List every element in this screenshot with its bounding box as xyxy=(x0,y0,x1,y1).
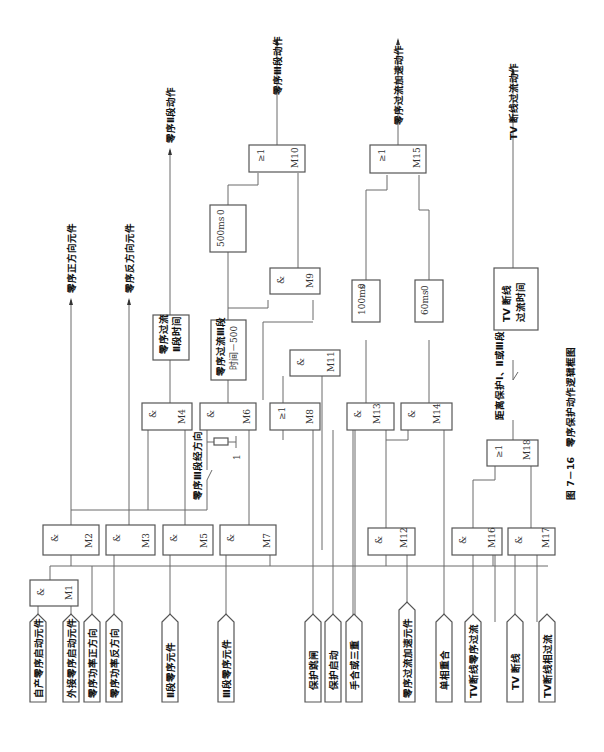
svg-text:≥1: ≥1 xyxy=(377,149,387,162)
svg-text:M13: M13 xyxy=(372,403,382,424)
input-label: 零序过流加速元件 xyxy=(402,618,413,699)
svg-text:0: 0 xyxy=(216,209,226,215)
svg-text:&: & xyxy=(276,276,286,284)
svg-text:M1: M1 xyxy=(64,585,74,600)
input-label: 单相重合 xyxy=(439,650,450,690)
input-label: TV 断线 xyxy=(510,653,521,690)
logic-diagram: 自产零序启动元件 外接零序启动元件 零序功率正方向 零序功率反方向 Ⅱ段零序元件… xyxy=(0,0,604,752)
svg-text:≥1: ≥1 xyxy=(494,445,504,458)
svg-text:M14: M14 xyxy=(432,403,442,424)
svg-text:&: & xyxy=(353,410,363,418)
gates: & M1 & M2 & M3 & M5 & M7 & M4 & M6 ≥1 M8… xyxy=(30,145,555,606)
svg-text:&: & xyxy=(112,534,122,542)
svg-text:M2: M2 xyxy=(84,533,94,548)
svg-text:零序过流Ⅲ段: 零序过流Ⅲ段 xyxy=(215,317,226,377)
svg-text:M10: M10 xyxy=(290,147,300,168)
svg-text:零序Ⅱ段动作: 零序Ⅱ段动作 xyxy=(165,87,176,144)
svg-text:M12: M12 xyxy=(399,527,409,548)
svg-text:&: & xyxy=(148,410,158,418)
input-label: Ⅱ段零序元件 xyxy=(165,642,176,698)
svg-text:&: & xyxy=(514,536,524,544)
svg-text:M3: M3 xyxy=(141,533,151,548)
svg-text:零序过流加速动作: 零序过流加速动作 xyxy=(393,45,404,126)
svg-text:≥1: ≥1 xyxy=(277,407,287,420)
input-label: TV断线零序过流 xyxy=(468,624,479,698)
svg-text:M17: M17 xyxy=(541,527,551,548)
input-label: 零序功率正方向 xyxy=(87,628,98,699)
svg-text:M9: M9 xyxy=(305,273,315,288)
input-label: 手合或三重 xyxy=(349,640,360,690)
input-label: 自产零序启动元件 xyxy=(33,618,44,698)
svg-text:&: & xyxy=(36,588,46,596)
input-label: TV断线相过流 xyxy=(542,634,553,698)
figure-caption: 图 7－16 零序保护动作逻辑框图 xyxy=(565,347,576,500)
svg-text:零序Ⅲ段动作: 零序Ⅲ段动作 xyxy=(272,36,283,96)
input-labels: 自产零序启动元件 外接零序启动元件 零序功率正方向 零序功率反方向 Ⅱ段零序元件… xyxy=(33,618,553,699)
svg-text:&: & xyxy=(226,534,236,542)
input-label: 保护跳闸 xyxy=(308,650,319,691)
svg-text:M11: M11 xyxy=(326,351,336,372)
svg-text:TV 断线过流动作: TV 断线过流动作 xyxy=(508,63,519,140)
input-label: Ⅲ段零序元件 xyxy=(221,639,232,698)
timers: 零序过流 Ⅱ段时间 零序过流Ⅲ段 时间－500 500ms 0 100ms 0 … xyxy=(153,205,538,380)
svg-text:时间－500: 时间－500 xyxy=(228,326,239,370)
switch-label-distance: 距离保护Ⅰ、Ⅱ或Ⅲ段 xyxy=(494,331,505,420)
svg-text:M6: M6 xyxy=(242,409,252,424)
switch-label-iii-direction: 零序Ⅲ段经方向 xyxy=(192,431,203,501)
svg-text:500ms: 500ms xyxy=(216,216,226,247)
svg-text:零序过流: 零序过流 xyxy=(158,314,169,355)
svg-text:60ms: 60ms xyxy=(420,290,430,315)
svg-text:TV 断线: TV 断线 xyxy=(501,285,512,322)
input-label: 保护启动 xyxy=(328,650,339,691)
svg-text:M4: M4 xyxy=(177,409,187,424)
svg-text:M7: M7 xyxy=(262,533,272,548)
svg-text:&: & xyxy=(407,410,417,418)
svg-text:Ⅱ段时间: Ⅱ段时间 xyxy=(171,316,182,352)
svg-text:M8: M8 xyxy=(305,409,315,424)
svg-text:零序反方向元件: 零序反方向元件 xyxy=(124,223,135,294)
svg-text:&: & xyxy=(374,536,384,544)
svg-text:≥1: ≥1 xyxy=(256,149,266,162)
constant-one: 1 xyxy=(232,454,242,460)
svg-text:0: 0 xyxy=(357,283,367,289)
input-label: 零序功率反方向 xyxy=(109,628,120,699)
svg-text:0: 0 xyxy=(420,285,430,291)
svg-text:过流时间: 过流时间 xyxy=(515,282,526,322)
svg-text:零序正方向元件: 零序正方向元件 xyxy=(66,223,77,294)
svg-text:&: & xyxy=(169,534,179,542)
svg-text:&: & xyxy=(458,536,468,544)
svg-text:M18: M18 xyxy=(522,439,532,460)
svg-text:&: & xyxy=(206,410,216,418)
svg-text:M15: M15 xyxy=(412,147,422,168)
svg-text:M16: M16 xyxy=(487,527,497,548)
svg-text:&: & xyxy=(50,534,60,542)
svg-text:M5: M5 xyxy=(199,533,209,548)
svg-text:&: & xyxy=(296,358,306,366)
input-label: 外接零序启动元件 xyxy=(66,618,77,699)
